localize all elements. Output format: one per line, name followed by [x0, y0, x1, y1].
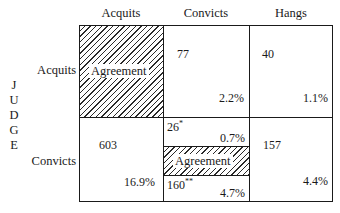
judge-letter: J	[9, 78, 19, 93]
cell-convicts-convicts-top-pct: 0.7%	[200, 131, 245, 146]
cell-acquits-convicts-pct: 2.2%	[200, 91, 244, 106]
cell-acquits-hangs-pct: 1.1%	[280, 91, 328, 106]
cell-convicts-hangs-count: 157	[263, 138, 281, 153]
count-value: 26	[167, 120, 179, 134]
judge-axis-label: J U D G E	[9, 78, 19, 153]
judge-letter: D	[9, 108, 19, 123]
row-header-convicts: Convicts	[20, 154, 76, 169]
footnote-mark: **	[185, 177, 193, 186]
footnote-mark: *	[179, 119, 183, 128]
grid-vline-2	[249, 25, 250, 202]
grid-hline-mid	[79, 117, 333, 118]
judge-letter: E	[9, 138, 19, 153]
count-value: 160	[167, 178, 185, 192]
cell-convicts-convicts-bottom-count: 160**	[167, 177, 193, 193]
column-header-acquits: Acquits	[79, 6, 163, 21]
row-header-acquits: Acquits	[20, 63, 76, 78]
judge-letter: U	[9, 93, 19, 108]
cell-convicts-convicts-agreement-label: Agreement	[173, 154, 233, 168]
cell-convicts-hangs-pct: 4.4%	[280, 174, 328, 189]
column-header-hangs: Hangs	[249, 6, 333, 21]
cell-acquits-convicts-count: 77	[177, 47, 189, 62]
cell-acquits-hangs-count: 40	[262, 47, 274, 62]
cell-convicts-acquits-pct: 16.9%	[108, 175, 155, 190]
cell-convicts-acquits-count: 603	[99, 138, 117, 153]
cell-convicts-convicts-bottom-pct: 4.7%	[200, 186, 245, 201]
cell-convicts-convicts-top-count: 26*	[167, 119, 183, 135]
column-header-convicts: Convicts	[163, 6, 249, 21]
cell-acquits-acquits-label: Agreement	[89, 64, 149, 78]
judge-letter: G	[9, 123, 19, 138]
